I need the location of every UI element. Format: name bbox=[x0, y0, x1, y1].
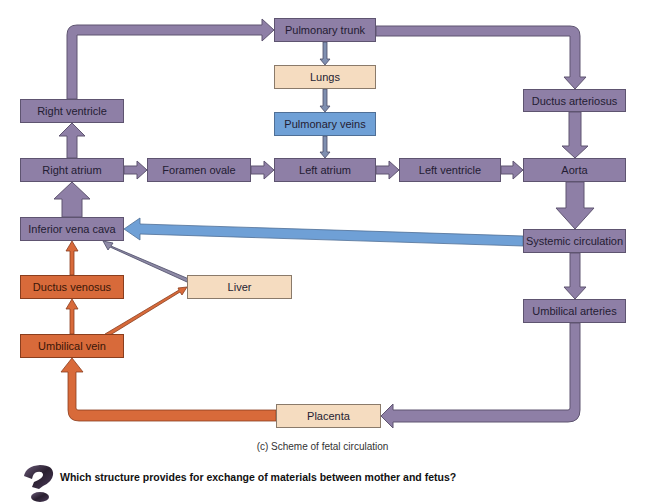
arrow-lv-to-aorta bbox=[501, 161, 523, 179]
node-inferior-vena-cava: Inferior vena cava bbox=[20, 217, 124, 241]
arrow-systemic-to-umbilical-arteries bbox=[564, 253, 586, 299]
arrow-rv-to-pulmonary-trunk bbox=[67, 19, 274, 99]
arrow-pulmonary-trunk-to-ductus-arteriosus bbox=[376, 26, 586, 89]
node-aorta: Aorta bbox=[523, 158, 626, 182]
arrow-placenta-to-umbilical-vein bbox=[61, 358, 276, 421]
node-ductus-venosus: Ductus venosus bbox=[20, 275, 124, 299]
arrow-aorta-to-systemic bbox=[556, 182, 594, 229]
node-umbilical-vein: Umbilical vein bbox=[20, 334, 124, 358]
arrow-ra-to-rv bbox=[59, 123, 85, 158]
arrow-foramen-ovale-to-la bbox=[251, 161, 274, 179]
node-pulmonary-veins: Pulmonary veins bbox=[274, 112, 376, 136]
arrow-pulmonary-veins-to-la bbox=[320, 136, 330, 158]
arrow-systemic-to-ivc bbox=[124, 218, 523, 246]
node-left-ventricle: Left ventricle bbox=[399, 158, 501, 182]
arrow-lungs-to-pulmonary-veins bbox=[320, 89, 330, 112]
node-right-ventricle: Right ventricle bbox=[20, 99, 124, 123]
arrow-ductus-arteriosus-to-aorta bbox=[562, 112, 588, 158]
node-ductus-arteriosus: Ductus arteriosus bbox=[523, 89, 626, 112]
node-left-atrium: Left atrium bbox=[274, 158, 376, 182]
arrow-pulmonary-trunk-to-lungs bbox=[320, 42, 330, 65]
node-systemic-circulation: Systemic circulation bbox=[523, 229, 626, 253]
node-liver: Liver bbox=[187, 275, 292, 299]
arrow-ra-to-foramen-ovale bbox=[124, 161, 147, 179]
node-pulmonary-trunk: Pulmonary trunk bbox=[274, 18, 376, 42]
node-placenta: Placenta bbox=[276, 404, 381, 428]
arrow-la-to-lv bbox=[376, 161, 399, 179]
arrow-ductus-venosus-to-ivc bbox=[66, 241, 78, 275]
question-text: Which structure provides for exchange of… bbox=[60, 471, 456, 483]
figure-caption: (c) Scheme of fetal circulation bbox=[0, 441, 645, 452]
node-umbilical-arteries: Umbilical arteries bbox=[523, 299, 626, 323]
arrow-ivc-to-ra bbox=[54, 182, 90, 217]
node-lungs: Lungs bbox=[274, 65, 376, 89]
node-right-atrium: Right atrium bbox=[20, 158, 124, 182]
question-mark-icon bbox=[18, 462, 58, 503]
node-foramen-ovale: Foramen ovale bbox=[147, 158, 251, 182]
arrow-umbilical-arteries-to-placenta bbox=[381, 323, 580, 428]
arrow-umbilical-vein-to-ductus-venosus bbox=[66, 299, 78, 334]
